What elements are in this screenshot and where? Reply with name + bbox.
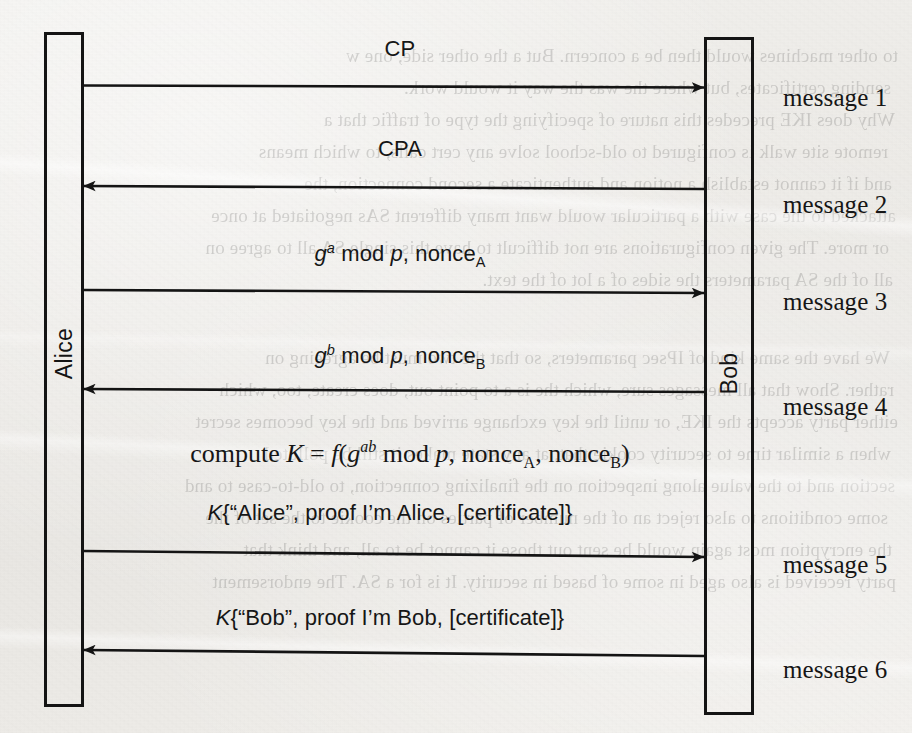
actor-label-alice: Alice xyxy=(51,324,78,384)
message-number-5: message 5 xyxy=(783,551,887,579)
message-payload-5: K{“Alice”, proof I’m Alice, [certificate… xyxy=(208,500,573,526)
message-arrow-6 xyxy=(84,650,704,656)
message-number-2: message 2 xyxy=(783,191,887,219)
message-arrow-4 xyxy=(84,389,704,392)
message-number-4: message 4 xyxy=(783,393,887,421)
message-payload-4: gb mod p, nonceB xyxy=(314,342,485,372)
message-payload-3: ga mod p, nonceA xyxy=(314,240,485,270)
message-payload-2: CPA xyxy=(378,136,422,162)
message-arrow-5 xyxy=(83,551,704,557)
message-arrow-3 xyxy=(83,290,704,293)
message-arrow-1 xyxy=(83,86,704,88)
message-number-1: message 1 xyxy=(783,84,887,112)
message-payload-6: K{“Bob”, proof I’m Bob, [certificate]} xyxy=(216,605,565,631)
message-number-6: message 6 xyxy=(783,656,887,684)
message-number-3: message 3 xyxy=(783,288,887,316)
actor-label-bob: Bob xyxy=(716,344,743,404)
message-payload-1: CP xyxy=(385,36,416,62)
message-arrow-2 xyxy=(84,186,704,189)
annotation-compute-k: compute K = f(gab mod p, nonceA, nonceB) xyxy=(190,438,630,472)
